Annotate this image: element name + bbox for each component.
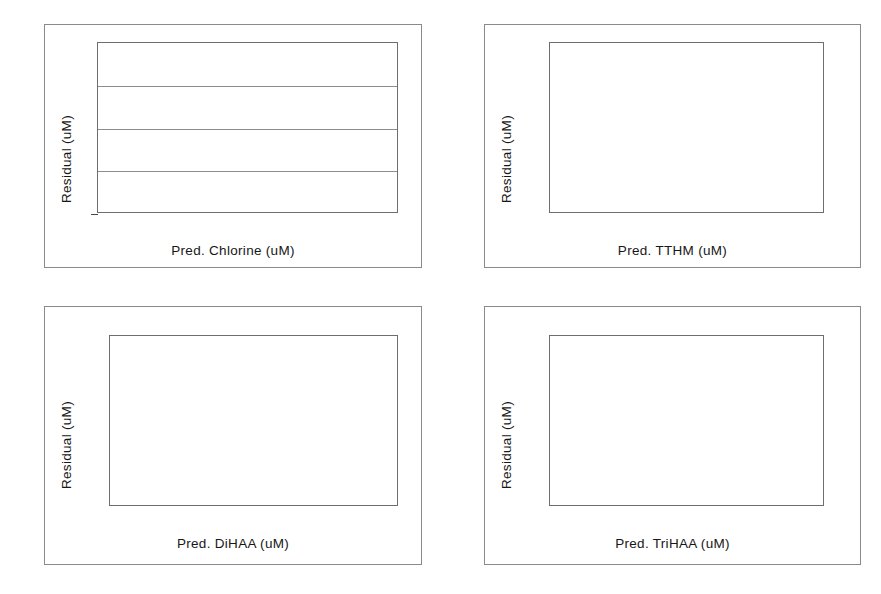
plot-area-dihaa bbox=[109, 335, 398, 506]
x-axis-title-trihaa: Pred. TriHAA (uM) bbox=[485, 536, 860, 551]
panel-tthm: Residual (uM) Pred. TTHM (uM) bbox=[484, 24, 861, 268]
x-axis-title-dihaa: Pred. DiHAA (uM) bbox=[45, 536, 421, 551]
x-axis-title-tthm: Pred. TTHM (uM) bbox=[485, 243, 860, 258]
y-tick-mark bbox=[91, 214, 98, 215]
scatter-points-chlorine bbox=[98, 43, 397, 212]
gridline-horizontal bbox=[98, 171, 397, 172]
scatter-points-trihaa bbox=[550, 336, 823, 505]
gridline-horizontal bbox=[98, 129, 397, 130]
scatter-points-tthm bbox=[550, 43, 823, 212]
y-axis-title-tthm: Residual (uM) bbox=[499, 115, 514, 203]
residual-plots-figure: Residual (uM) Pred. Chlorine (uM) Residu… bbox=[0, 0, 881, 594]
plot-area-tthm bbox=[549, 42, 824, 213]
y-axis-title-trihaa: Residual (uM) bbox=[499, 401, 514, 489]
panel-chlorine: Residual (uM) Pred. Chlorine (uM) bbox=[44, 24, 422, 268]
plot-area-trihaa bbox=[549, 335, 824, 506]
gridline-horizontal bbox=[98, 86, 397, 87]
panel-dihaa: Residual (uM) Pred. DiHAA (uM) bbox=[44, 306, 422, 565]
y-axis-title-chlorine: Residual (uM) bbox=[59, 115, 74, 203]
scatter-points-dihaa bbox=[110, 336, 397, 505]
x-axis-title-chlorine: Pred. Chlorine (uM) bbox=[45, 243, 421, 258]
plot-area-chlorine bbox=[97, 42, 398, 213]
y-axis-title-dihaa: Residual (uM) bbox=[59, 401, 74, 489]
panel-trihaa: Residual (uM) Pred. TriHAA (uM) bbox=[484, 306, 861, 565]
